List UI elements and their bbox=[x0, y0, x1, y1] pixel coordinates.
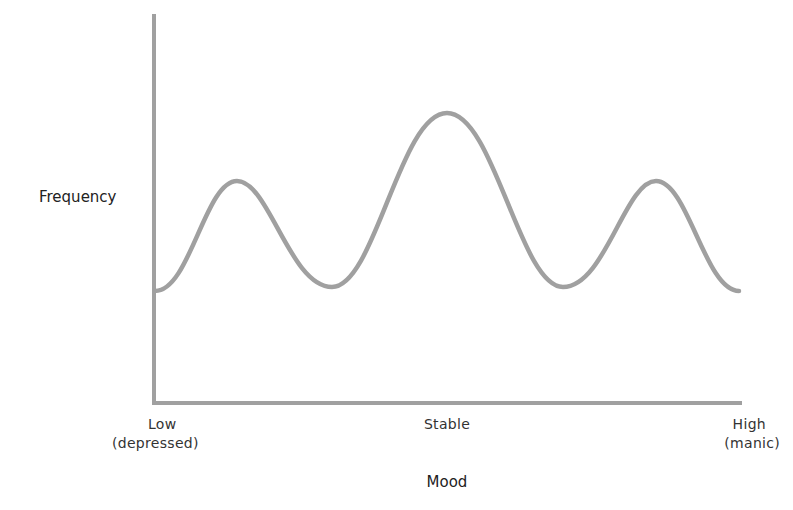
x-tick-low: Low (depressed) bbox=[112, 415, 232, 453]
y-axis-label: Frequency bbox=[39, 188, 117, 207]
x-tick-high: High (manic) bbox=[680, 415, 780, 453]
x-tick-high-line2: (manic) bbox=[724, 435, 780, 451]
x-axis-label: Mood bbox=[397, 473, 497, 492]
x-tick-high-line1: High bbox=[680, 415, 780, 434]
axes bbox=[154, 14, 742, 403]
x-tick-low-line1: Low bbox=[112, 415, 232, 434]
x-tick-stable: Stable bbox=[397, 415, 497, 434]
frequency-curve bbox=[155, 113, 739, 291]
x-tick-low-line2: (depressed) bbox=[112, 435, 199, 451]
